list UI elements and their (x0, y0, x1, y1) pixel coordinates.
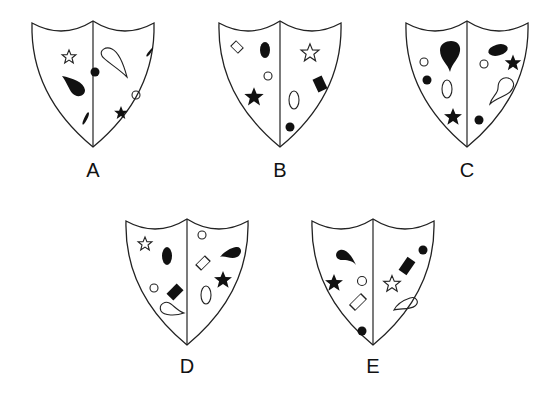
teardrop-filled-icon (62, 76, 85, 96)
paisley-outline-icon (160, 302, 184, 315)
diamond-outline-icon (231, 41, 243, 53)
shield-c (406, 21, 528, 147)
ellipse-outline-icon (442, 80, 452, 98)
ellipse-filled-icon (487, 42, 509, 58)
paisley-filled-icon (336, 250, 356, 265)
dot-filled-icon (286, 123, 295, 132)
ellipse-outline-icon (201, 286, 211, 304)
ellipse-outline-icon (289, 91, 299, 109)
paisley-outline-icon (490, 78, 514, 104)
ellipse-filled-icon (162, 247, 172, 265)
paisley-filled-icon (220, 247, 241, 258)
star-outline-icon (62, 50, 76, 63)
star-outline-icon (301, 44, 319, 61)
diamond-filled-icon (399, 257, 416, 275)
dot-filled-icon (475, 116, 484, 125)
diamond-outline-icon (350, 294, 367, 311)
dot-filled-icon (419, 246, 428, 255)
rect-filled-icon (313, 76, 328, 93)
ellipse-filled-icon (260, 42, 270, 58)
label-c: C (460, 159, 474, 181)
puzzle-figure: A B C (0, 0, 554, 394)
label-a: A (86, 159, 100, 181)
shield-e (312, 219, 434, 345)
drop-filled-icon (82, 112, 89, 124)
circle-outline-icon (198, 231, 206, 239)
diamond-filled-icon (167, 284, 184, 301)
dot-filled-icon (423, 76, 432, 85)
circle-outline-icon (150, 284, 158, 292)
paisley-outline-icon (101, 48, 127, 77)
circle-outline-icon (480, 60, 488, 68)
circle-outline-icon (264, 72, 272, 80)
diamond-outline-icon (196, 256, 210, 270)
star-filled-icon (325, 274, 343, 291)
teardrop-filled-icon (440, 41, 460, 72)
star-filled-icon (444, 108, 462, 125)
star-outline-icon (384, 276, 401, 292)
label-e: E (366, 355, 379, 377)
label-d: D (180, 355, 194, 377)
dot-filled-icon (91, 68, 100, 77)
circle-outline-icon (420, 58, 428, 66)
star-filled-icon (214, 271, 232, 288)
circle-outline-icon (358, 277, 367, 286)
shield-a (32, 21, 154, 147)
star-outline-icon (138, 237, 152, 250)
star-filled-icon (505, 55, 522, 71)
shield-b (219, 21, 341, 147)
dot-filled-icon (358, 327, 367, 336)
label-b: B (273, 159, 286, 181)
shield-d (126, 219, 248, 345)
star-filled-icon (244, 87, 263, 105)
